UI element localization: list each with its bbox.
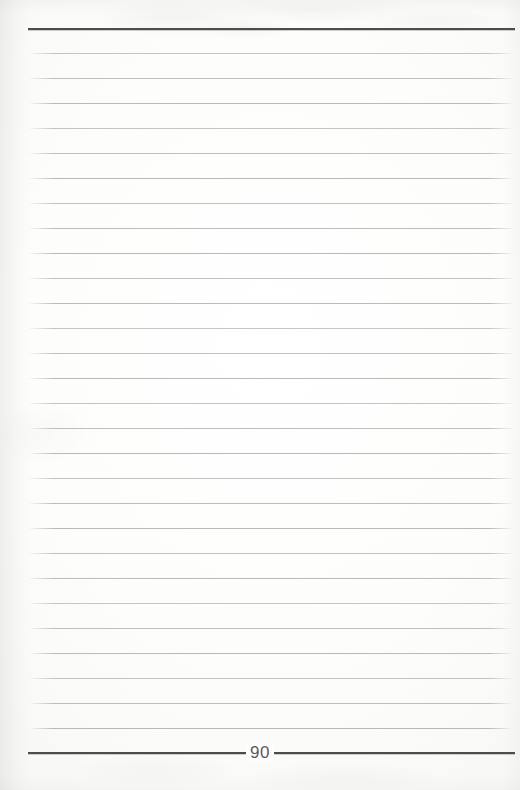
- rule-line: [28, 628, 515, 629]
- rule-line: [28, 328, 515, 329]
- rule-line: [28, 578, 515, 579]
- rule-line: [28, 378, 515, 379]
- page-number: 90: [246, 744, 274, 761]
- rule-line: [28, 453, 515, 454]
- rule-line: [28, 403, 515, 404]
- rule-line: [28, 178, 515, 179]
- rule-line: [28, 653, 515, 654]
- rule-line: [28, 428, 515, 429]
- rule-line: [28, 78, 515, 79]
- rule-line: [28, 353, 515, 354]
- rule-line: [28, 703, 515, 704]
- rule-line: [28, 503, 515, 504]
- scanned-page: 90: [0, 0, 520, 790]
- rule-line: [28, 728, 515, 729]
- rule-line: [28, 103, 515, 104]
- rule-line: [28, 128, 515, 129]
- rule-line: [28, 478, 515, 479]
- ruling-lines: [0, 0, 520, 790]
- rule-line: [28, 228, 515, 229]
- page-number-container: 90: [0, 744, 520, 761]
- rule-line: [28, 153, 515, 154]
- rule-line: [28, 303, 515, 304]
- rule-line: [28, 553, 515, 554]
- rule-line: [28, 603, 515, 604]
- rule-line: [28, 278, 515, 279]
- rule-line: [28, 203, 515, 204]
- rule-line: [28, 678, 515, 679]
- rule-line: [28, 53, 515, 54]
- rule-line: [28, 528, 515, 529]
- rule-line: [28, 253, 515, 254]
